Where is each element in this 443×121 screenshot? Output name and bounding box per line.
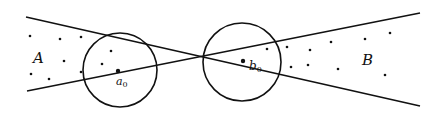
diagram-svg: A B a0 b0 <box>0 0 443 121</box>
scatter-dot <box>290 66 293 69</box>
label-region-a: A <box>31 49 44 67</box>
scatter-dot <box>337 68 340 71</box>
center-point-b0 <box>241 59 245 63</box>
label-b0: b0 <box>249 59 262 74</box>
scatter-dot <box>48 78 51 81</box>
center-point-a0 <box>116 69 120 73</box>
scatter-dot <box>80 71 83 74</box>
label-region-b: B <box>361 51 373 69</box>
scatter-dot <box>330 41 333 44</box>
diagram-canvas: A B a0 b0 <box>0 0 443 121</box>
scatter-dot <box>266 48 269 51</box>
scatter-dot <box>80 36 83 39</box>
scatter-dot <box>309 49 312 52</box>
label-a0: a0 <box>116 75 128 89</box>
scatter-dot <box>389 32 392 35</box>
scatter-dot <box>29 35 32 38</box>
scatter-dot <box>384 74 387 77</box>
scatter-dot <box>101 63 104 66</box>
scatter-dot <box>364 38 367 41</box>
scatter-dot <box>110 50 113 53</box>
scatter-dot <box>30 73 33 76</box>
scatter-dot <box>59 38 62 41</box>
scatter-dot <box>307 64 310 67</box>
scatter-dot <box>63 60 66 63</box>
scatter-dot <box>286 46 289 49</box>
circle-a0 <box>83 33 157 107</box>
line-upper-left-to-lower-right <box>26 17 420 106</box>
